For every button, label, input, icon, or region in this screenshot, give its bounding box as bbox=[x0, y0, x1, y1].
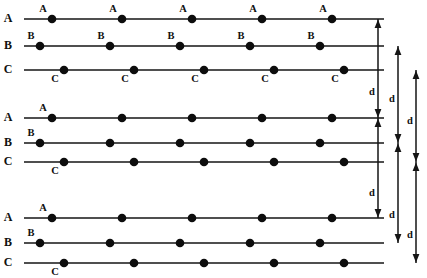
row-label-b: B bbox=[4, 38, 12, 52]
atom-dot bbox=[316, 139, 325, 148]
dimension-arrowhead-down bbox=[413, 254, 420, 263]
row-label-c: C bbox=[4, 154, 13, 168]
atom-label-b: B bbox=[167, 30, 174, 41]
atom-label-a: A bbox=[319, 3, 327, 14]
atom-dot bbox=[130, 259, 139, 268]
dimension-arrowhead-up bbox=[375, 119, 382, 128]
atom-dot bbox=[130, 158, 139, 167]
atom-label-a: A bbox=[249, 3, 257, 14]
atom-label-a: A bbox=[39, 102, 47, 113]
dimension-arrowhead-up bbox=[395, 144, 402, 153]
row-label-a: A bbox=[4, 11, 13, 25]
dimension-arrowhead-down bbox=[413, 153, 420, 162]
dimension-arrowhead-up bbox=[413, 71, 420, 80]
atom-dot bbox=[118, 214, 127, 223]
dimension-arrowhead-down bbox=[395, 134, 402, 143]
atom-label-a: A bbox=[179, 3, 187, 14]
atom-dot bbox=[340, 66, 349, 75]
atom-dot bbox=[258, 114, 267, 123]
atom-label-a: A bbox=[109, 3, 117, 14]
dimension-arrowhead-up bbox=[375, 20, 382, 29]
atom-dot bbox=[340, 158, 349, 167]
atom-dot bbox=[246, 139, 255, 148]
atom-dot bbox=[60, 259, 69, 268]
d-from-C-2: d bbox=[407, 162, 419, 263]
atom-label-a: A bbox=[39, 202, 47, 213]
d-from-B: d bbox=[389, 46, 401, 143]
atom-dot bbox=[328, 114, 337, 123]
row-label-a: A bbox=[4, 210, 13, 224]
atom-label-c: C bbox=[121, 73, 129, 84]
group-2: AABBCC bbox=[4, 102, 384, 176]
group-3: AABBCC bbox=[4, 202, 384, 277]
row-label-b: B bbox=[4, 135, 12, 149]
atom-dot bbox=[106, 42, 115, 51]
atom-dot bbox=[60, 158, 69, 167]
atom-dot bbox=[60, 66, 69, 75]
atom-label-b: B bbox=[27, 127, 34, 138]
atom-dot bbox=[48, 214, 57, 223]
atom-dot bbox=[270, 158, 279, 167]
atom-dot bbox=[36, 239, 45, 248]
atom-dot bbox=[246, 42, 255, 51]
dimension-arrowhead-down bbox=[375, 209, 382, 218]
atom-label-c: C bbox=[51, 73, 59, 84]
atom-label-b: B bbox=[27, 30, 34, 41]
atom-dot bbox=[188, 214, 197, 223]
atom-label-b: B bbox=[27, 227, 34, 238]
atom-dot bbox=[176, 239, 185, 248]
dimension-arrowhead-up bbox=[413, 163, 420, 172]
atom-dot bbox=[118, 15, 127, 24]
atom-dot bbox=[188, 15, 197, 24]
atom-label-b: B bbox=[237, 30, 244, 41]
atom-label-a: A bbox=[39, 3, 47, 14]
atom-dot bbox=[270, 66, 279, 75]
atom-dot bbox=[36, 139, 45, 148]
figure-canvas: AAAAAABBBBBBCCCCCCAABBCCAABBCC dddddd bbox=[0, 0, 427, 278]
row-label-c: C bbox=[4, 255, 13, 269]
atom-dot bbox=[106, 139, 115, 148]
dimension-arrowhead-up bbox=[395, 47, 402, 56]
d-from-A-2: d bbox=[369, 118, 381, 218]
d-from-C: d bbox=[407, 70, 419, 162]
row-label-c: C bbox=[4, 62, 13, 76]
group-1: AAAAAABBBBBBCCCCCC bbox=[4, 3, 384, 84]
atom-label-c: C bbox=[51, 165, 59, 176]
dimensions-layer: dddddd bbox=[369, 19, 419, 263]
atom-label-b: B bbox=[97, 30, 104, 41]
atom-dot bbox=[328, 214, 337, 223]
atom-dot bbox=[258, 214, 267, 223]
dimension-label-d: d bbox=[369, 187, 375, 198]
atom-dot bbox=[48, 114, 57, 123]
atom-label-c: C bbox=[191, 73, 199, 84]
atom-dot bbox=[200, 66, 209, 75]
atom-dot bbox=[188, 114, 197, 123]
atom-dot bbox=[328, 15, 337, 24]
dimension-label-d: d bbox=[407, 229, 413, 240]
atom-dot bbox=[176, 42, 185, 51]
d-from-B-2: d bbox=[389, 143, 401, 243]
row-label-b: B bbox=[4, 235, 12, 249]
dimension-label-d: d bbox=[369, 86, 375, 97]
atom-label-c: C bbox=[261, 73, 269, 84]
dimension-label-d: d bbox=[389, 93, 395, 104]
atom-dot bbox=[316, 42, 325, 51]
d-from-A: d bbox=[369, 19, 381, 118]
atom-dot bbox=[200, 259, 209, 268]
atom-dot bbox=[36, 42, 45, 51]
atom-dot bbox=[316, 239, 325, 248]
atom-dot bbox=[48, 15, 57, 24]
atom-label-c: C bbox=[51, 266, 59, 277]
atom-label-b: B bbox=[307, 30, 314, 41]
stacking-diagram: AAAAAABBBBBBCCCCCCAABBCCAABBCC dddddd bbox=[0, 0, 427, 278]
atom-dot bbox=[106, 239, 115, 248]
row-label-a: A bbox=[4, 110, 13, 124]
atom-dot bbox=[258, 15, 267, 24]
atom-dot bbox=[200, 158, 209, 167]
atom-dot bbox=[130, 66, 139, 75]
atom-label-c: C bbox=[331, 73, 339, 84]
atom-dot bbox=[118, 114, 127, 123]
dimension-arrowhead-down bbox=[395, 234, 402, 243]
atom-dot bbox=[340, 259, 349, 268]
atom-dot bbox=[246, 239, 255, 248]
